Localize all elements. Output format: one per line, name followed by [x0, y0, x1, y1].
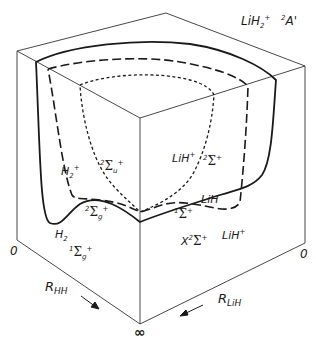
state-symmetry: A' [285, 14, 297, 28]
axis-label-r-lih: RLiH [218, 292, 241, 308]
label-text: LiH [201, 193, 218, 206]
label-sigma-g-doublet: 2Σg+ [85, 206, 108, 221]
label-x-state: X2Σ+ [181, 235, 207, 247]
infinity-label: ∞ [134, 325, 146, 339]
label-sigma-doublet: 2Σ+ [203, 155, 222, 167]
short-dashed-contour-curve [80, 75, 214, 212]
sigma-symbol: Σ [178, 207, 186, 221]
r-lih-arrow [180, 305, 203, 316]
label-text: X [181, 235, 189, 248]
label-sup: + [239, 228, 245, 236]
label-sigma-u: 2Σu+ [100, 160, 123, 175]
axis-label-r-hh: RHH [45, 280, 68, 296]
origin-left-label: 0 [10, 245, 18, 257]
label-sup: + [74, 164, 80, 172]
r-hh-arrow [81, 296, 99, 309]
molecule-name: LiH [241, 14, 260, 28]
molecule-superscript: + [265, 14, 271, 22]
label-sup: + [187, 207, 193, 215]
label-text: LiH [222, 229, 239, 242]
label-h2: H2 [55, 229, 68, 243]
label-lih-plus-lower: LiH+ [222, 229, 245, 241]
potential-energy-surface-diagram: LiH2+ 2A' H2+ 2Σu+ 2Σg+ H2 1Σg+ LiH+ 2Σ+… [0, 0, 316, 344]
sigma-symbol: Σ [73, 245, 81, 259]
label-sub: 2 [69, 172, 73, 180]
box-edge-bottom-right [140, 243, 305, 324]
label-h2-plus: H2+ [61, 165, 80, 180]
label-sup: + [202, 234, 208, 242]
axis-symbol: R [218, 291, 227, 306]
state-title: 2A' [281, 15, 297, 27]
label-lih-plus-upper: LiH+ [172, 152, 195, 164]
axis-symbol: R [45, 279, 54, 294]
sigma-symbol: Σ [193, 234, 201, 248]
label-sup: + [102, 205, 108, 213]
box-edge-top-left-front [17, 51, 140, 118]
label-sub: g [98, 213, 102, 221]
label-sub: 2 [63, 235, 67, 243]
molecule-subscript: 2 [260, 22, 264, 30]
label-sigma-singlet: 1Σ+ [174, 208, 193, 220]
box-edge-top-right-front [140, 66, 305, 118]
origin-right-label: 0 [300, 248, 308, 260]
axis-subscript: HH [54, 286, 68, 296]
label-sup: + [216, 154, 222, 162]
label-lih: LiH [201, 194, 218, 205]
sigma-symbol: Σ [104, 159, 112, 173]
sigma-symbol: Σ [207, 154, 215, 168]
label-text: LiH [172, 152, 189, 165]
box-edge-top-left-back [17, 13, 166, 51]
long-dashed-contour-curve [48, 59, 248, 212]
sigma-symbol: Σ [89, 205, 97, 219]
axis-subscript: LiH [227, 298, 241, 308]
label-sup: + [86, 245, 92, 253]
label-sup: + [189, 151, 195, 159]
label-sup: + [117, 159, 123, 167]
label-sigma-g-singlet: 1Σg+ [69, 246, 92, 261]
label-sub: u [113, 167, 117, 175]
label-sub: g [82, 253, 86, 261]
molecule-title: LiH2+ [241, 15, 270, 30]
